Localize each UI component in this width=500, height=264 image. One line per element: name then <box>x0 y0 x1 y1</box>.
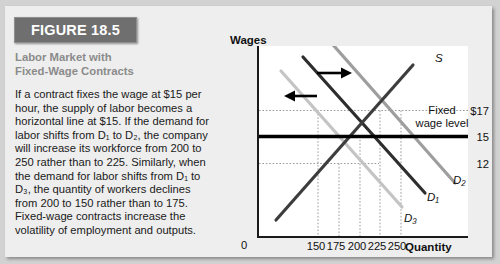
figure-title: Labor Market with Fixed-Wage Contracts <box>15 51 205 78</box>
chart-svg <box>259 46 468 236</box>
plot-inner <box>259 46 468 236</box>
figure-title-line2: Fixed-Wage Contracts <box>15 65 205 79</box>
fixed-wage-annotation: Fixed wage level <box>409 104 475 130</box>
figure-number-banner: FIGURE 18.5 <box>14 17 137 43</box>
x-tick-250: 250 <box>385 240 409 252</box>
curve-label-s: S <box>435 52 443 64</box>
demand-curve-d1 <box>303 57 425 193</box>
figure-card: FIGURE 18.5 Labor Market with Fixed-Wage… <box>5 6 492 257</box>
figure-caption: If a contract fixes the wage at $15 per … <box>15 88 211 238</box>
chart-container: Wages Quantity 0 $17 15 12 150 175 200 2… <box>219 34 489 256</box>
figure-number-label: FIGURE 18.5 <box>15 18 136 42</box>
page-background: FIGURE 18.5 Labor Market with Fixed-Wage… <box>0 0 500 264</box>
x-axis-title: Quantity <box>405 241 452 253</box>
demand-curve-d3 <box>281 71 402 207</box>
curve-label-d2: D₂ <box>453 174 466 186</box>
y-axis-title: Wages <box>230 34 267 46</box>
figure-title-line1: Labor Market with <box>15 51 205 65</box>
fixed-wage-annotation-line1: Fixed <box>409 104 475 117</box>
plot-area <box>257 46 468 238</box>
curve-label-d3: D₃ <box>404 212 417 224</box>
fixed-wage-annotation-line2: wage level <box>409 117 475 130</box>
origin-label: 0 <box>241 239 247 251</box>
curve-label-d1: D₁ <box>427 191 439 203</box>
